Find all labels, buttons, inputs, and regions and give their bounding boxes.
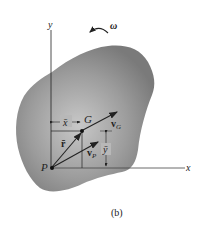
point-p-label: P [40,161,48,173]
r-bar-label: r̄ [61,138,66,149]
y-bar-label: ȳ [102,144,108,155]
y-axis-label: y [47,19,53,30]
figure-caption: (b) [111,207,123,219]
x-bar-label: x̄ [62,117,68,128]
point-g-label: G [84,113,92,125]
point-p [50,166,54,170]
x-axis-label: x [185,162,191,173]
rigid-body-diagram: y x ω x̄ ȳ r̄ vG vP G P (b) [0,0,208,238]
angular-velocity-arrow-icon [90,28,108,33]
omega-label: ω [110,20,117,31]
point-g [80,129,84,133]
